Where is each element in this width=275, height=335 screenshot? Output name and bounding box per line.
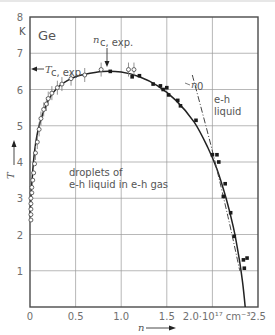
droplets-label-2: e-h liquid in e-h gas [69,179,168,190]
open-data-point [126,68,130,72]
y-tick-label: 4 [17,157,23,168]
filled-data-point [243,266,247,270]
y-tick-label: 5 [17,121,23,132]
filled-data-point [223,182,227,186]
y-axis-symbol: T [5,171,16,179]
open-data-point [39,117,43,121]
open-data-point [37,127,41,131]
filled-data-point [159,84,163,88]
n0-sub: 0 [197,81,203,92]
filled-data-point [211,153,215,157]
open-data-point [33,162,37,166]
filled-data-point [138,74,142,78]
nc-exp-sub: c, exp. [100,37,133,48]
n0-annotation: n 0 [185,79,203,92]
arrow-down-icon [105,61,110,67]
x-tick-label: 1.0 [113,311,129,322]
open-data-point [30,191,34,195]
open-data-point [50,91,54,95]
filled-data-point [194,119,198,123]
y-tick-label: 6 [17,85,23,96]
filled-data-point [222,195,226,199]
filled-data-point [130,75,134,79]
open-data-point [35,140,39,144]
droplets-label-1: droplets of [69,167,123,178]
nc-exp-annotation: n c, exp. [93,34,133,67]
arrow-up-icon [12,140,17,147]
open-data-point [42,107,46,111]
eh-liquid-label-1: e-h [214,94,230,105]
open-data-point [132,68,136,72]
nc-exp-label: n [93,34,99,45]
filled-data-point [108,70,112,74]
open-data-point [33,151,37,155]
tc-exp-annotation: T c, exp. [31,64,84,78]
x-tick-label: 2.5 [250,311,266,322]
arrow-left-icon [31,67,37,72]
y-tick-label: 2 [17,230,23,241]
y-tick-label: 7 [17,48,23,59]
filled-data-point [242,258,246,262]
x-tick-label: 1.5 [159,311,175,322]
filled-data-point [245,256,249,260]
y-axis-label: T [5,140,17,179]
grid [30,17,258,307]
filled-data-point [232,235,236,239]
filled-data-point [161,88,165,92]
open-data-point [99,68,103,72]
arrow-right-icon [169,326,176,331]
open-data-point [29,207,33,211]
x-tick-label: 0 [27,311,33,322]
y-tick-label: 1 [17,266,23,277]
open-data-point [55,86,59,90]
y-tick-label: 8 [17,12,23,23]
tc-exp-sub: c, exp. [51,67,84,78]
filled-data-point [167,93,171,97]
phase-diagram-chart: 00.51.01.52.0·10¹⁷ cm⁻³2.512345678 Ge K … [0,0,275,335]
open-data-point [32,171,36,175]
open-data-point [31,178,35,182]
open-data-point [29,196,33,200]
x-axis-symbol: n [138,322,144,333]
filled-data-point [215,153,219,157]
eh-liquid-label-2: liquid [214,106,241,117]
filled-data-point [151,82,155,86]
title-ge: Ge [38,28,56,43]
open-data-point [29,213,33,217]
y-tick-label: 3 [17,193,23,204]
x-tick-label: 0.5 [68,311,84,322]
n0-leader [185,83,190,85]
filled-data-point [229,211,233,215]
open-data-point [44,102,48,106]
open-data-point [29,202,33,206]
axis-ticks: 00.51.01.52.0·10¹⁷ cm⁻³2.512345678 [17,12,266,322]
filled-data-point [176,99,180,103]
open-data-point [29,218,33,222]
open-data-point [30,185,34,189]
filled-data-point [165,86,169,90]
open-data-point [60,82,64,86]
x-tick-label: 2.0·10¹⁷ cm⁻³ [183,311,251,322]
open-data-point [46,97,50,101]
filled-data-point [217,160,221,164]
filled-data-point [179,104,183,108]
y-unit-label: K [19,26,26,37]
x-axis-label: n [138,322,176,333]
